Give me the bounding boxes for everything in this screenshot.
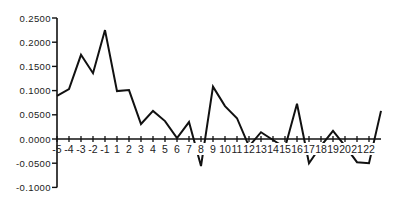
- y-tick-label: 0.0000: [20, 134, 51, 145]
- x-tick-label: 8: [198, 143, 204, 155]
- x-tick-label: 10: [219, 143, 231, 155]
- x-tick-label: 13: [255, 143, 267, 155]
- y-tick-label: -0.0500: [16, 158, 51, 169]
- x-tick-label: 22: [363, 143, 375, 155]
- x-tick-label: 7: [186, 143, 192, 155]
- x-axis: [57, 136, 381, 142]
- y-tick-label: 0.1000: [20, 85, 51, 96]
- x-tick-label: 9: [210, 143, 216, 155]
- x-tick-label: 14: [267, 143, 279, 155]
- x-tick-label: 5: [162, 143, 168, 155]
- y-tick-label: 0.2500: [20, 13, 51, 24]
- x-tick-label: 4: [150, 143, 156, 155]
- x-tick-label: -2: [88, 143, 97, 155]
- y-tick-labels: 0.25000.20000.15000.10000.05000.0000-0.0…: [16, 13, 51, 193]
- x-tick-label: 16: [291, 143, 303, 155]
- y-tick-label: -0.1000: [16, 182, 51, 193]
- x-tick-label: -3: [76, 143, 85, 155]
- y-tick-label: 0.0500: [20, 109, 51, 120]
- x-tick-label: 2: [126, 143, 132, 155]
- x-tick-labels: -5-4-3-2-1123456789101112131415161718192…: [52, 143, 375, 155]
- x-tick-label: 15: [279, 143, 291, 155]
- x-tick-label: 21: [351, 143, 363, 155]
- x-tick-label: 11: [232, 143, 243, 155]
- x-tick-label: -5: [52, 143, 61, 155]
- x-tick-label: 20: [339, 143, 351, 155]
- y-tick-label: 0.2000: [20, 37, 51, 48]
- y-tick-label: 0.1500: [20, 61, 51, 72]
- line-chart: 0.25000.20000.15000.10000.05000.0000-0.0…: [0, 0, 401, 199]
- x-tick-label: 19: [327, 143, 339, 155]
- x-tick-label: 12: [243, 143, 255, 155]
- x-tick-label: 3: [138, 143, 144, 155]
- y-axis: [52, 18, 57, 187]
- x-tick-label: -1: [100, 143, 109, 155]
- x-tick-label: -4: [64, 143, 73, 155]
- x-tick-label: 6: [174, 143, 180, 155]
- x-tick-label: 18: [315, 143, 327, 155]
- x-tick-label: 17: [303, 143, 315, 155]
- x-tick-label: 1: [114, 143, 120, 155]
